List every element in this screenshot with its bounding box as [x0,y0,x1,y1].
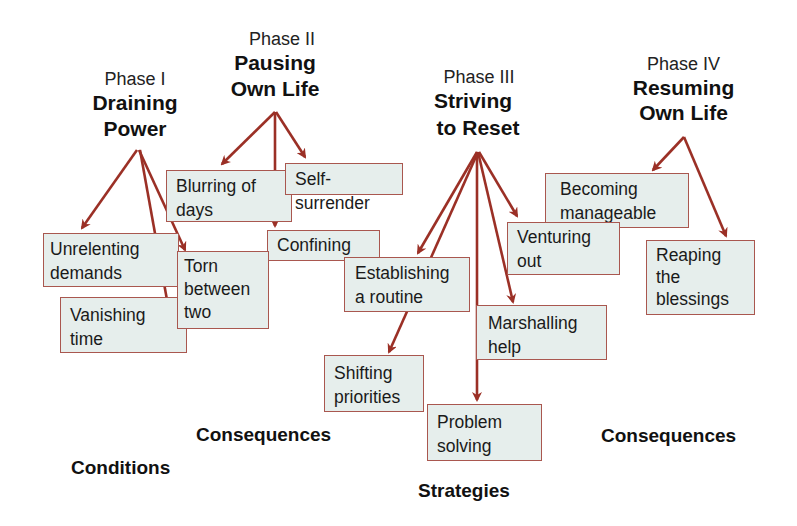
phase-4-number: Phase IV [616,55,751,73]
box-venturing-out: Venturing out [507,222,620,275]
phase-4-header: Phase IV Resuming Own Life [616,55,751,124]
arrow-p4-becoming [653,137,684,170]
phase-1-header: Phase I Draining Power [70,70,200,141]
label-consequences-right: Consequences [601,425,736,447]
phase-4-title-line2: Own Life [616,102,751,124]
arrow-p2-self-surrender [276,112,305,157]
arrow-p1-unrelenting [82,150,137,228]
phase-3-header: Phase III Striving to Reset [413,68,543,141]
label-conditions: Conditions [71,457,170,479]
box-unrelenting-demands: Unrelenting demands [43,233,179,287]
arrow-p2-blurring [222,112,275,164]
box-reaping-blessings: Reaping the blessings [646,240,755,315]
phase-2-number: Phase II [224,30,340,48]
arrow-p3-establishing [418,152,477,253]
arrow-p4-reaping [684,137,726,236]
box-blurring-of-days: Blurring of days [166,170,292,222]
phase-3-number: Phase III [415,68,543,86]
phase-2-header: Phase II Pausing Own Life [210,30,340,101]
phase-3-title-line2: to Reset [413,115,543,141]
phase-1-title-line1: Draining [70,88,200,117]
phase-2-title-line1: Pausing [210,48,340,77]
box-establishing-routine: Establishing a routine [344,257,470,312]
box-marshalling-help: Marshalling help [476,305,607,360]
box-shifting-priorities: Shifting priorities [324,355,424,412]
label-consequences-left: Consequences [196,424,331,446]
box-torn-between-two: Torn between two [177,251,269,329]
box-becoming-manageable: Becoming manageable [545,173,689,228]
phase-1-number: Phase I [70,70,200,88]
box-self-surrender: Self-surrender [285,163,403,195]
arrow-p3-venturing [479,152,517,216]
phase-4-title-line1: Resuming [616,73,751,102]
phase-1-title-line2: Power [70,117,200,141]
box-problem-solving: Problem solving [427,404,542,461]
phase-3-title-line1: Striving [403,86,543,115]
label-strategies: Strategies [418,480,510,502]
phase-2-title-line2: Own Life [210,77,340,101]
box-vanishing-time: Vanishing time [60,297,187,353]
